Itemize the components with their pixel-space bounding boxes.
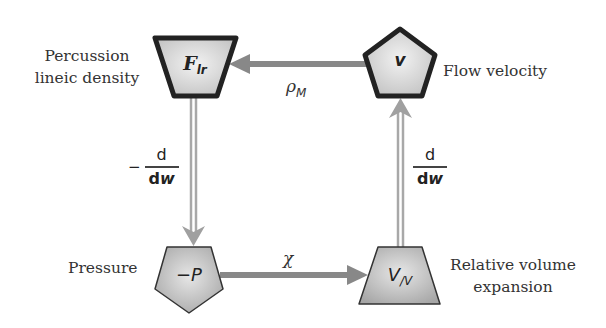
tetrahedron-diagram: Flr v −P V/V Percussion lineic density F… (0, 0, 606, 328)
edge-volume-to-velocity (389, 98, 412, 247)
fraction-bar (145, 166, 179, 168)
fraction-bar (413, 166, 447, 168)
symbol-main: −P (176, 264, 202, 285)
minus-sign: − (128, 158, 141, 176)
node-velocity-label: Flow velocity (443, 60, 547, 82)
edge-label-chi: χ (283, 248, 293, 268)
symbol-main: V (388, 264, 400, 285)
label-sub: M (296, 86, 306, 100)
symbol-main: F (183, 52, 197, 74)
edge-label-neg-derivative: − d dw (128, 146, 179, 188)
numerator: d (425, 146, 435, 164)
fraction: d dw (413, 146, 447, 188)
node-pressure-symbol: −P (164, 264, 214, 285)
node-pressure-label: Pressure (68, 257, 138, 279)
symbol-sub: /V (400, 274, 412, 288)
label-line: lineic density (24, 67, 150, 89)
node-volume-symbol: V/V (375, 264, 425, 285)
label-line: Pressure (68, 257, 138, 279)
edge-pressure-to-volume (220, 265, 368, 285)
node-force-label: Percussion lineic density (24, 45, 150, 89)
arrowhead-up-icon (389, 98, 412, 118)
symbol-main: v (394, 50, 405, 70)
node-velocity-symbol: v (385, 50, 415, 70)
edge-label-derivative: d dw (413, 146, 447, 188)
label-main: ρ (286, 76, 296, 96)
label-line: Percussion (24, 45, 150, 67)
arrowhead-down-icon (182, 226, 205, 246)
denominator: dw (148, 170, 174, 188)
numerator: d (157, 146, 167, 164)
symbol-sub: lr (197, 63, 207, 77)
label-line: Relative volume (440, 254, 586, 276)
den-var: w (428, 169, 443, 188)
den-d: d (417, 169, 428, 188)
node-force-symbol: Flr (170, 52, 220, 74)
edge-label-rho-m: ρM (286, 76, 306, 96)
label-main: χ (283, 248, 293, 268)
edge-velocity-to-force (229, 54, 366, 74)
den-d: d (148, 169, 159, 188)
edge-force-to-pressure (182, 98, 205, 246)
node-volume-label: Relative volume expansion (440, 254, 586, 298)
den-var: w (160, 169, 175, 188)
label-line: Flow velocity (443, 60, 547, 82)
fraction: d dw (145, 146, 179, 188)
arrowhead-right-icon (347, 265, 368, 285)
label-line: expansion (440, 276, 586, 298)
denominator: dw (417, 170, 443, 188)
